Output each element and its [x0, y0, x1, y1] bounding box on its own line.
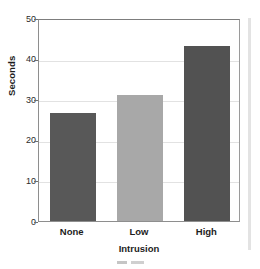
scan-artifact	[117, 261, 147, 264]
y-tick-mark	[34, 222, 38, 223]
y-tick-label: 0	[10, 218, 36, 227]
page-edge-artifact	[248, 18, 251, 250]
x-axis-title: Intrusion	[38, 243, 240, 254]
x-tick-label-high: High	[176, 226, 236, 237]
y-tick-label: 10	[10, 177, 36, 186]
x-tick-label-low: Low	[109, 226, 169, 237]
bars-layer	[39, 20, 239, 221]
y-tick-label: 50	[10, 15, 36, 24]
bar-none	[50, 113, 96, 221]
bar-high	[184, 46, 230, 221]
x-tick-label-none: None	[42, 226, 102, 237]
plot-area	[38, 19, 240, 222]
bar-chart-figure: Seconds 01020304050 NoneLowHigh Intrusio…	[0, 0, 260, 269]
y-tick-label: 40	[10, 55, 36, 64]
bar-low	[117, 95, 163, 221]
y-tick-label: 20	[10, 136, 36, 145]
y-tick-label: 30	[10, 96, 36, 105]
